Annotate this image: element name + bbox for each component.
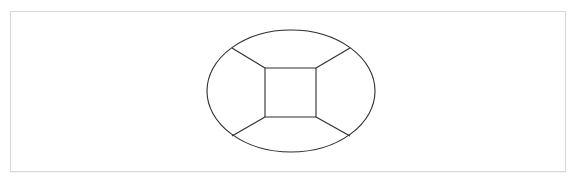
spoke-top-left-line [232, 48, 265, 68]
inner-square-shape [265, 68, 316, 117]
spoke-bottom-left-line [232, 117, 265, 136]
screenshot-root: An ellipse containing a centered square,… [0, 0, 581, 184]
diagram-figure [0, 0, 581, 184]
spoke-bottom-right-line [316, 117, 350, 136]
spoke-top-right-line [316, 48, 350, 68]
